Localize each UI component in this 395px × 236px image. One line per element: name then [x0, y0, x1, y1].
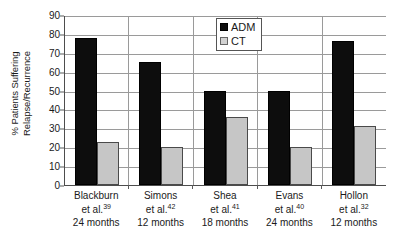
follow-up-duration: 12 months — [128, 216, 192, 230]
y-axis-tick-30: 30 — [49, 124, 60, 134]
y-axis-tick-90: 90 — [49, 11, 60, 21]
y-axis-title-line-1: % Patients Suffering — [9, 51, 21, 136]
bar-adm-hollon — [332, 41, 354, 185]
y-axis-title-line-2: Relapse/Recurrence — [20, 51, 32, 136]
study-name: Blackburn — [64, 189, 128, 203]
bars — [65, 16, 128, 185]
reference-number: 32 — [361, 202, 369, 209]
bar-group-hollon — [323, 16, 386, 185]
bars — [258, 16, 321, 185]
legend-item-adm: ADM — [220, 21, 255, 33]
bar-adm-evans — [268, 91, 290, 185]
study-name: Simons — [128, 189, 192, 203]
y-axis-tick-80: 80 — [49, 30, 60, 40]
bar-ct-shea — [226, 117, 248, 185]
study-name: Evans — [257, 189, 321, 203]
y-axis-tick-20: 20 — [49, 143, 60, 153]
y-axis-tick-50: 50 — [49, 87, 60, 97]
y-axis-tick-10: 10 — [49, 162, 60, 172]
y-axis-title: % Patients Suffering Relapse/Recurrence — [0, 0, 40, 186]
bar-ct-hollon — [354, 126, 376, 185]
bar-ct-blackburn — [97, 142, 119, 185]
study-citation: et al.41 — [193, 203, 257, 217]
bar-adm-blackburn — [75, 38, 97, 185]
follow-up-duration: 24 months — [64, 216, 128, 230]
bar-adm-shea — [204, 91, 226, 185]
legend-item-ct: CT — [220, 35, 255, 47]
bars — [129, 16, 192, 185]
y-axis-tick-labels: 9080706050403020100 — [38, 0, 64, 186]
bar-group-blackburn — [65, 16, 129, 185]
gray-square-icon — [220, 37, 228, 45]
reference-number: 41 — [232, 202, 240, 209]
legend-label: CT — [231, 35, 246, 47]
follow-up-duration: 12 months — [322, 216, 386, 230]
study-citation: et al.39 — [64, 203, 128, 217]
bar-adm-simons — [139, 62, 161, 185]
bar-group-evans — [258, 16, 322, 185]
x-axis-label-blackburn: Blackburnet al.3924 months — [64, 189, 128, 230]
study-name: Shea — [193, 189, 257, 203]
study-citation: et al.40 — [257, 203, 321, 217]
y-axis-tick-40: 40 — [49, 105, 60, 115]
legend-label: ADM — [231, 21, 255, 33]
reference-number: 40 — [296, 202, 304, 209]
bar-chart-figure: % Patients Suffering Relapse/Recurrence … — [0, 0, 395, 236]
black-square-icon — [220, 23, 228, 31]
study-name: Hollon — [322, 189, 386, 203]
reference-number: 39 — [103, 202, 111, 209]
x-axis-label-evans: Evanset al.4024 months — [257, 189, 321, 230]
x-axis-tick-labels: Blackburnet al.3924 monthsSimonset al.42… — [64, 189, 386, 230]
x-axis-label-shea: Sheaet al.4118 months — [193, 189, 257, 230]
reference-number: 42 — [168, 202, 176, 209]
x-axis-label-hollon: Hollonet al.3212 months — [322, 189, 386, 230]
y-axis-tick-60: 60 — [49, 68, 60, 78]
follow-up-duration: 18 months — [193, 216, 257, 230]
bar-ct-evans — [290, 147, 312, 185]
chart-legend: ADMCT — [216, 18, 262, 51]
bar-ct-simons — [161, 147, 183, 185]
study-citation: et al.32 — [322, 203, 386, 217]
study-citation: et al.42 — [128, 203, 192, 217]
follow-up-duration: 24 months — [257, 216, 321, 230]
bars — [323, 16, 386, 185]
x-axis-label-simons: Simonset al.4212 months — [128, 189, 192, 230]
bar-group-simons — [129, 16, 193, 185]
y-axis-tick-70: 70 — [49, 49, 60, 59]
